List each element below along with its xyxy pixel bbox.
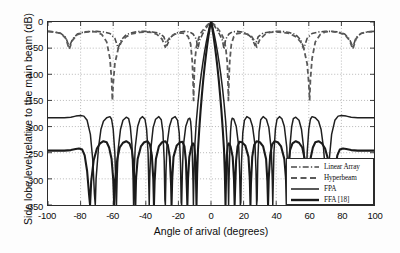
x-tick-label: -100 [38, 210, 56, 221]
legend-label-fpa: FPA [324, 185, 336, 193]
x-tick-label: -80 [73, 210, 86, 221]
x-tick-label: 20 [239, 210, 249, 221]
chart-figure: 0-50-100-150-200-250-300-350 -100-80-60-… [0, 0, 400, 253]
x-tick-label: 0 [209, 210, 214, 221]
x-tick-label: 80 [337, 210, 347, 221]
x-tick-label: -40 [139, 210, 152, 221]
x-tick-label: -20 [172, 210, 185, 221]
legend-label-hyperbeam: Hyperbeam [324, 174, 357, 182]
legend-label-linear-array: Linear Array [324, 163, 360, 171]
y-axis-label: Side lobe level relative to the main bea… [22, 12, 34, 227]
legend: Linear Array Hyperbeam FPA FFA [18] [286, 158, 374, 205]
legend-item-fpa: FPA [290, 183, 373, 194]
x-tick-label: 100 [368, 210, 383, 221]
legend-swatch-solid-thin [290, 184, 320, 194]
legend-item-ffa: FFA [18] [290, 194, 373, 205]
x-axis-label: Angle of arival (degrees) [47, 225, 375, 237]
legend-swatch-solid-thick [290, 195, 320, 205]
x-tick-label: 40 [272, 210, 282, 221]
legend-item-hyperbeam: Hyperbeam [290, 172, 373, 183]
x-tick-label: 60 [304, 210, 314, 221]
legend-swatch-dash-dot [290, 162, 320, 172]
legend-swatch-dashed [290, 173, 320, 183]
legend-item-linear-array: Linear Array [290, 161, 373, 172]
x-tick-label: -60 [106, 210, 119, 221]
legend-label-ffa: FFA [18] [324, 196, 349, 204]
